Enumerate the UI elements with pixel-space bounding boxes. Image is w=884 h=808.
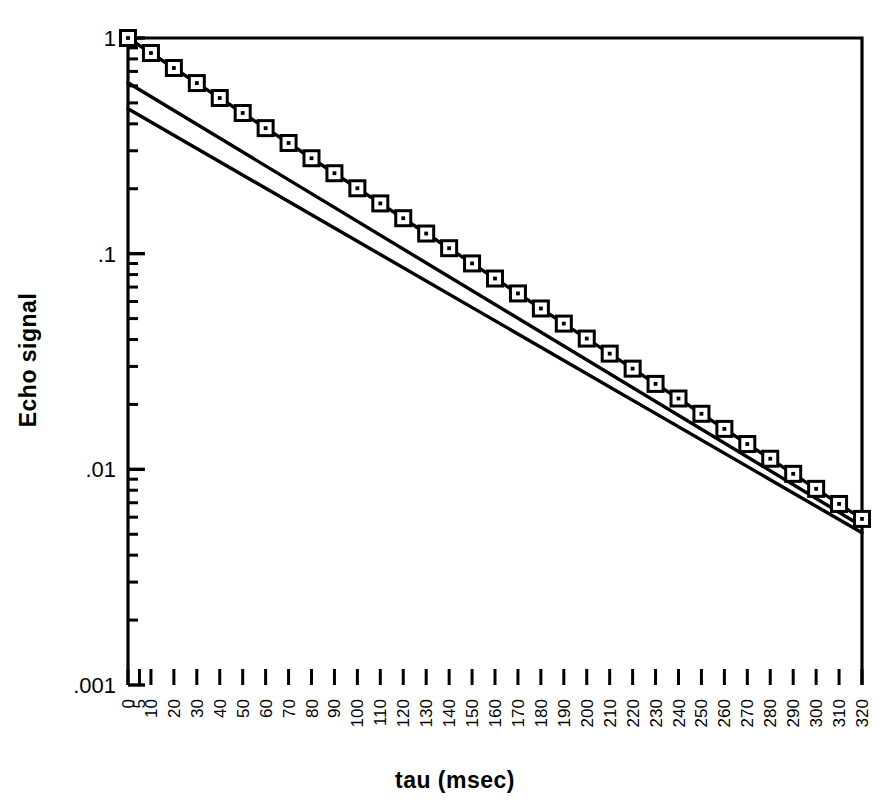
- x-tick-label: 250: [692, 699, 711, 727]
- data-point-marker: [533, 301, 548, 316]
- data-point-marker: [556, 316, 571, 331]
- x-tick-label: 20: [165, 699, 184, 718]
- marker-center-dot: [264, 126, 268, 130]
- data-point-marker: [488, 271, 503, 286]
- x-tick-label: 90: [325, 699, 344, 718]
- data-point-marker: [855, 511, 870, 526]
- data-point-marker: [419, 226, 434, 241]
- x-tick-label: 160: [486, 699, 505, 727]
- x-tick-label: 180: [532, 699, 551, 727]
- data-point-marker: [442, 241, 457, 256]
- x-tick-label: 280: [761, 699, 780, 727]
- marker-center-dot: [608, 352, 612, 356]
- x-tick-label: 130: [417, 699, 436, 727]
- marker-center-dot: [814, 487, 818, 491]
- x-tick-label: 190: [555, 699, 574, 727]
- plot-frame: [128, 38, 862, 685]
- data-point-marker: [281, 135, 296, 150]
- x-tick-label: 300: [807, 699, 826, 727]
- data-point-marker: [373, 196, 388, 211]
- marker-center-dot: [768, 457, 772, 461]
- x-tick-label: 170: [509, 699, 528, 727]
- data-point-marker: [671, 391, 686, 406]
- data-point-marker: [465, 256, 480, 271]
- marker-center-dot: [470, 262, 474, 266]
- marker-center-dot: [654, 382, 658, 386]
- marker-center-dot: [333, 171, 337, 175]
- data-point-marker: [304, 151, 319, 166]
- x-tick-label: 80: [303, 699, 322, 718]
- x-tick-label: 70: [280, 699, 299, 718]
- data-point-marker: [786, 466, 801, 481]
- x-tick-label: 30: [188, 699, 207, 718]
- data-point-marker: [579, 331, 594, 346]
- marker-center-dot: [562, 322, 566, 326]
- x-tick-label: 270: [738, 699, 757, 727]
- x-tick-label: 40: [211, 699, 230, 718]
- data-point-marker: [763, 451, 778, 466]
- y-tick-label: .1: [98, 242, 116, 267]
- data-point-marker: [143, 46, 158, 61]
- series-path-reference-line-upper: [128, 83, 862, 526]
- x-axis-tick-labels: 0510203040506070809010011012013014015016…: [119, 699, 872, 727]
- data-point-marker: [625, 361, 640, 376]
- marker-center-dot: [310, 156, 314, 160]
- x-tick-label: 310: [830, 699, 849, 727]
- marker-center-dot: [218, 96, 222, 100]
- data-point-marker: [235, 106, 250, 121]
- y-tick-label: 1: [104, 26, 116, 51]
- data-point-marker: [166, 60, 181, 75]
- marker-center-dot: [195, 81, 199, 85]
- marker-center-dot: [539, 307, 543, 311]
- x-tick-label: 110: [371, 699, 390, 726]
- x-tick-label: 240: [670, 699, 689, 727]
- data-point-marker: [648, 376, 663, 391]
- x-tick-label: 120: [394, 699, 413, 727]
- marker-center-dot: [722, 427, 726, 431]
- marker-center-dot: [424, 232, 428, 236]
- data-point-marker: [189, 76, 204, 91]
- x-tick-label: 60: [257, 699, 276, 718]
- data-point-marker: [258, 121, 273, 136]
- data-point-marker: [212, 91, 227, 106]
- x-tick-label: 320: [853, 699, 872, 727]
- x-tick-label: 100: [348, 699, 367, 727]
- y-axis-title: Echo signal: [15, 293, 41, 428]
- data-point-marker: [602, 346, 617, 361]
- marker-center-dot: [447, 246, 451, 250]
- y-tick-label: .001: [73, 673, 116, 698]
- data-point-marker: [832, 496, 847, 511]
- marker-center-dot: [700, 412, 704, 416]
- x-tick-label: 220: [624, 699, 643, 727]
- y-axis-tick-labels: 1.1.01.001: [73, 26, 116, 698]
- marker-center-dot: [355, 186, 359, 190]
- marker-center-dot: [837, 502, 841, 506]
- data-point-marker: [717, 421, 732, 436]
- y-tick-label: .01: [85, 457, 116, 482]
- marker-center-dot: [172, 66, 176, 70]
- data-point-marker: [327, 166, 342, 181]
- marker-center-dot: [860, 517, 864, 521]
- figure-container: 1.1.01.001 05102030405060708090100110120…: [0, 0, 884, 808]
- data-point-marker: [350, 181, 365, 196]
- marker-center-dot: [585, 337, 589, 341]
- chart-canvas: 1.1.01.001 05102030405060708090100110120…: [0, 0, 884, 808]
- x-tick-label: 200: [578, 699, 597, 727]
- x-tick-label: 290: [784, 699, 803, 727]
- y-axis-ticks: [128, 38, 145, 685]
- marker-center-dot: [149, 51, 153, 55]
- x-tick-label: 260: [715, 699, 734, 727]
- data-point-marker: [740, 437, 755, 452]
- marker-center-dot: [516, 292, 520, 296]
- marker-center-dot: [791, 472, 795, 476]
- data-point-marker: [121, 31, 136, 46]
- x-tick-label: 230: [647, 699, 666, 727]
- marker-center-dot: [677, 397, 681, 401]
- x-tick-label: 140: [440, 699, 459, 727]
- data-point-marker: [510, 286, 525, 301]
- data-point-marker: [809, 481, 824, 496]
- x-axis-title: tau (msec): [395, 767, 515, 793]
- x-axis-ticks: [128, 669, 862, 685]
- marker-center-dot: [241, 111, 245, 115]
- marker-center-dot: [287, 141, 291, 145]
